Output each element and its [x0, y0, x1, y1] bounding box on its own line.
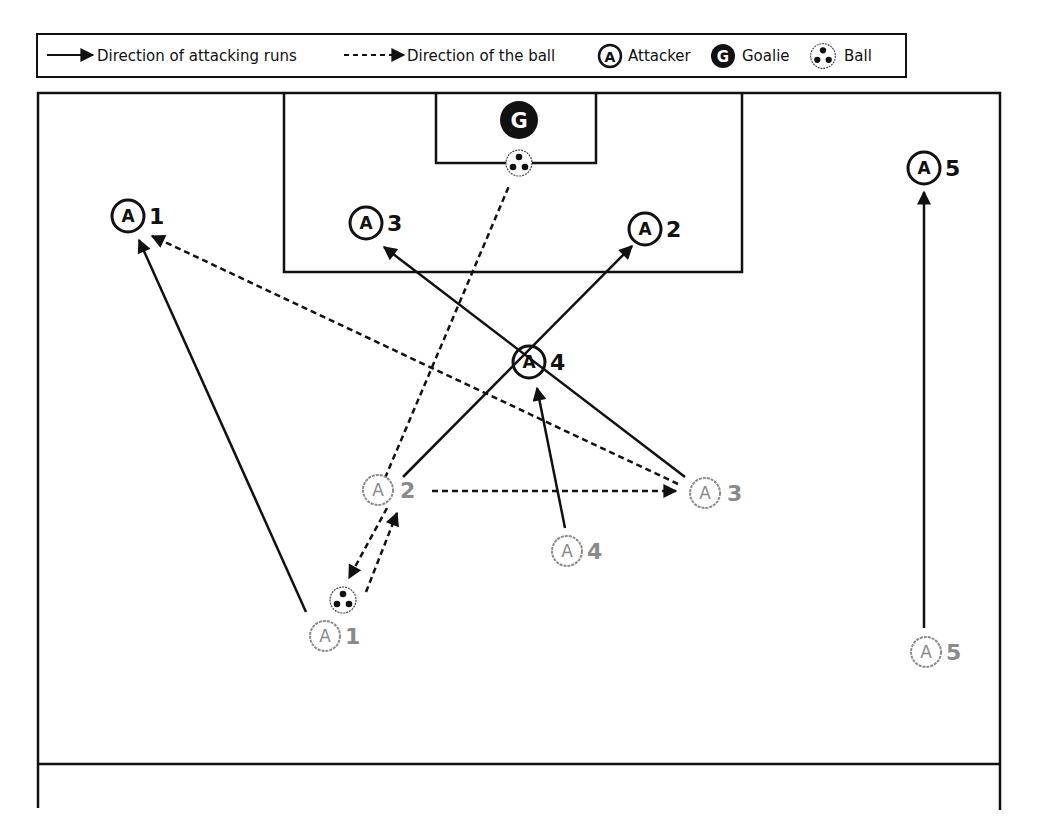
svg-text:2: 2: [666, 217, 681, 242]
ball-icon-start: [330, 587, 356, 613]
svg-text:G: G: [717, 48, 729, 66]
svg-text:A: A: [121, 206, 135, 226]
soccer-drill-diagram: Direction of attacking runs Direction of…: [0, 0, 1038, 836]
svg-text:1: 1: [149, 204, 164, 229]
svg-text:A: A: [319, 626, 331, 646]
legend-attacker-icon: A: [599, 45, 621, 67]
svg-text:4: 4: [550, 350, 565, 375]
svg-text:A: A: [638, 219, 652, 239]
run-attacker-2: [403, 246, 632, 477]
svg-text:A: A: [359, 213, 373, 233]
legend-run-label: Direction of attacking runs: [97, 47, 297, 65]
svg-text:3: 3: [387, 211, 402, 236]
svg-text:5: 5: [945, 156, 960, 181]
start-positions: A 1 A 2 A 3 A 4 A 5: [310, 475, 961, 667]
field: [38, 93, 1000, 810]
run-attacker-1: [139, 240, 306, 612]
svg-text:G: G: [510, 109, 527, 133]
svg-text:3: 3: [727, 481, 742, 506]
attacker-2-end: A 2: [629, 213, 681, 245]
attacker-5-end: A 5: [908, 152, 960, 184]
legend-goalie-label: Goalie: [742, 47, 790, 65]
attacker-1-start: A 1: [310, 621, 360, 651]
legend-goalie-icon: G: [711, 44, 735, 68]
svg-text:A: A: [699, 483, 711, 503]
attacker-4-start: A 4: [552, 536, 602, 566]
svg-text:1: 1: [345, 624, 360, 649]
svg-text:A: A: [605, 49, 616, 65]
legend-ball-icon-label: Ball: [844, 47, 872, 65]
attacker-3-end: A 3: [350, 207, 402, 239]
attacker-1-end: A 1: [112, 200, 164, 232]
svg-text:A: A: [917, 158, 931, 178]
pass-2-to-1: [349, 508, 387, 578]
svg-text:A: A: [372, 480, 384, 500]
legend-ball-icon: [811, 44, 836, 69]
run-attacker-4: [537, 388, 565, 528]
attacker-5-start: A 5: [911, 637, 961, 667]
svg-text:4: 4: [587, 539, 602, 564]
legend: Direction of attacking runs Direction of…: [37, 34, 906, 77]
ball-icon-goal: [506, 150, 532, 176]
attacker-2-start: A 2: [363, 475, 415, 505]
field-boundary: [38, 93, 1000, 810]
attacker-3-start: A 3: [690, 478, 742, 508]
legend-attacker-label: Attacker: [628, 47, 692, 65]
goalie-icon: G: [500, 101, 538, 139]
ball-paths: [152, 186, 678, 592]
attacking-runs: [139, 192, 924, 628]
svg-text:A: A: [920, 642, 932, 662]
pass-1-to-2: [366, 513, 397, 592]
svg-text:A: A: [561, 541, 573, 561]
svg-text:5: 5: [946, 640, 961, 665]
svg-text:2: 2: [400, 478, 415, 503]
legend-ball-label: Direction of the ball: [407, 47, 555, 65]
svg-text:A: A: [522, 352, 536, 372]
